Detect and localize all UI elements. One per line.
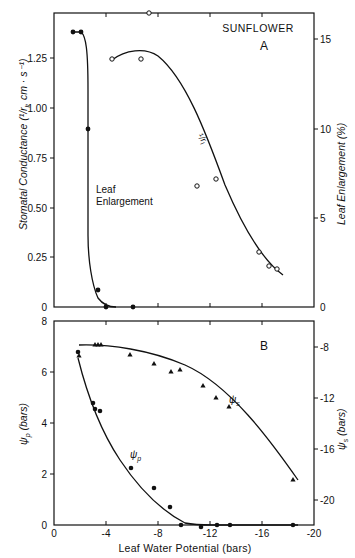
tick-label: -8 (154, 528, 163, 539)
tick-label: 15 (320, 34, 332, 45)
curve-label-leaf-enlargement-2: Enlargement (96, 196, 153, 207)
tick-label: 10 (320, 124, 332, 135)
panel-b-left-tick-labels: 8 6 4 2 0 (41, 316, 47, 531)
tick-label: 0 (320, 302, 326, 313)
curve-psi-p (78, 358, 298, 525)
tick-label: -12 (203, 528, 218, 539)
panel-b-top-ticks (106, 321, 262, 325)
panel-a-right-tick-labels: 15 10 5 0 (320, 34, 332, 313)
tick-label: -20 (320, 495, 335, 506)
tick-label: 1.25 (28, 53, 48, 64)
panel-a-right-axis-title: Leaf Enlargement (%) (335, 123, 347, 225)
x-axis-title: Leaf Water Potential (bars) (118, 542, 251, 554)
markers-stomatal-conductance (110, 11, 279, 271)
panel-a-frame (54, 13, 314, 307)
markers-psi-p (76, 350, 296, 530)
chart-title: SUNFLOWER (222, 22, 294, 34)
tick-label: -16 (320, 444, 335, 455)
tick-label: 1.00 (28, 103, 48, 114)
panel-b: 8 6 4 2 0 -8 -12 -16 -20 0 -4 -8 -12 -16… (17, 316, 349, 554)
tick-label: 0 (51, 528, 57, 539)
panel-b-right-axis-title: ψs (bars) (335, 409, 349, 450)
curve-label-rl: ¹/rl (195, 131, 210, 146)
curve-label-psi-p: ψp (130, 449, 141, 463)
tick-label: -12 (320, 393, 335, 404)
tick-label: -4 (102, 528, 111, 539)
panel-a-label: A (260, 39, 268, 53)
tick-label: -16 (255, 528, 270, 539)
curve-leaf-enlargement (73, 32, 116, 307)
panel-b-right-tick-labels: -8 -12 -16 -20 (320, 342, 335, 506)
tick-label: 4 (41, 418, 47, 429)
tick-label: 0.75 (28, 153, 48, 164)
tick-label: 0.50 (28, 203, 48, 214)
curve-label-leaf-enlargement-1: Leaf (96, 184, 116, 195)
tick-label: 0 (41, 302, 47, 313)
tick-label: 0 (41, 520, 47, 531)
panel-a: 1.25 1.00 0.75 0.50 0.25 0 15 10 5 0 Sto… (17, 11, 347, 313)
tick-label: 6 (41, 367, 47, 378)
curve-label-psi-s: ψs (229, 394, 240, 407)
curve-psi-s (79, 345, 298, 480)
curve-stomatal-conductance (112, 51, 283, 275)
markers-psi-s (76, 342, 295, 481)
panel-b-frame (54, 321, 314, 525)
panel-a-left-axis-title: Stomatal Conductance (¹/rl, cm · s⁻¹) (17, 58, 31, 230)
figure: 1.25 1.00 0.75 0.50 0.25 0 15 10 5 0 Sto… (0, 0, 355, 558)
tick-label: 5 (320, 213, 326, 224)
tick-label: 8 (41, 316, 47, 327)
panel-b-left-axis-title: ψp (bars) (17, 403, 32, 445)
tick-label: 2 (41, 469, 47, 480)
panel-a-left-tick-labels: 1.25 1.00 0.75 0.50 0.25 0 (28, 53, 48, 313)
tick-label: -20 (307, 528, 322, 539)
tick-label: -8 (320, 342, 329, 353)
panel-b-label: B (260, 339, 268, 353)
markers-leaf-enlargement (71, 30, 136, 310)
tick-label: 0.25 (28, 252, 48, 263)
x-tick-labels: 0 -4 -8 -12 -16 -20 (51, 528, 321, 539)
